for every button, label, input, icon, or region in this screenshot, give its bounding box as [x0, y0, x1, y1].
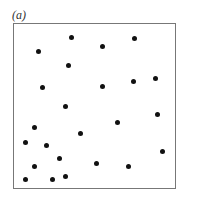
data-point [115, 120, 120, 125]
data-point [69, 35, 74, 40]
data-point [63, 174, 68, 179]
data-point [63, 104, 68, 109]
data-point [100, 84, 105, 89]
data-point [40, 85, 45, 90]
data-point [57, 156, 62, 161]
data-point [126, 164, 131, 169]
data-point [36, 49, 41, 54]
data-point [94, 161, 99, 166]
panel-label: (a) [12, 8, 26, 23]
scatter-plot-area [13, 23, 176, 189]
data-point [32, 125, 37, 130]
data-point [66, 63, 71, 68]
data-point [160, 149, 165, 154]
data-point [23, 140, 28, 145]
data-point [155, 112, 160, 117]
data-point [78, 131, 83, 136]
data-point [100, 44, 105, 49]
data-point [23, 177, 28, 182]
data-point [44, 143, 49, 148]
data-point [50, 177, 55, 182]
data-point [131, 79, 136, 84]
data-point [32, 164, 37, 169]
data-point [132, 36, 137, 41]
data-point [153, 76, 158, 81]
